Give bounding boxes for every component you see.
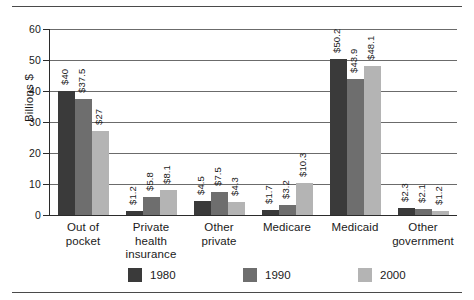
legend-label: 1980: [150, 269, 176, 281]
y-axis-tick-labels: 0102030405060: [0, 0, 41, 300]
y-axis-tick: [43, 122, 50, 123]
bar[interactable]: [126, 211, 143, 215]
bar[interactable]: [75, 99, 92, 215]
bar-group: $50.2$43.9$48.1: [321, 29, 389, 215]
x-axis-category-label: Out ofpocket: [49, 221, 117, 248]
bar-column: $1.2: [126, 29, 143, 215]
x-axis-category-label: Othergovernment: [389, 221, 457, 248]
bar-column: $40: [58, 29, 75, 215]
bar-value-label: $10.3: [297, 153, 308, 177]
category-label-line: Medicaid: [321, 221, 389, 235]
y-axis-tick-label: 0: [1, 209, 41, 221]
category-label-line: Other: [185, 221, 253, 235]
y-axis-tick-label: 60: [1, 23, 41, 35]
x-axis-category-label: Medicare: [253, 221, 321, 235]
bar-chart-figure: Billions $ 0102030405060 $40$37.5$27$1.2…: [0, 0, 474, 300]
bar-group: $1.2$5.8$8.1: [117, 29, 185, 215]
bar-group-bars: $1.7$3.2$10.3: [253, 29, 321, 215]
legend-item[interactable]: 1990: [243, 268, 291, 282]
bar-group: $1.7$3.2$10.3: [253, 29, 321, 215]
bar-column: $50.2: [330, 29, 347, 215]
bar-column: $4.5: [194, 29, 211, 215]
legend-label: 2000: [380, 269, 406, 281]
bar-value-label: $1.2: [127, 186, 138, 205]
bar-group-bars: $2.3$2.1$1.2: [389, 29, 457, 215]
category-label-line: Out of: [49, 221, 117, 235]
bar-group: $4.5$7.5$4.3: [185, 29, 253, 215]
y-axis-tick-label: 20: [1, 147, 41, 159]
bar[interactable]: [364, 66, 381, 215]
legend-label: 1990: [265, 269, 291, 281]
bar[interactable]: [279, 205, 296, 215]
bar[interactable]: [296, 183, 313, 215]
legend-item[interactable]: 2000: [358, 268, 406, 282]
bar[interactable]: [347, 79, 364, 215]
bar-column: $1.7: [262, 29, 279, 215]
bar-column: $48.1: [364, 29, 381, 215]
bar-column: $3.2: [279, 29, 296, 215]
bar[interactable]: [211, 192, 228, 215]
y-axis-tick-label: 50: [1, 54, 41, 66]
bar-value-label: $4.3: [229, 177, 240, 196]
bar-value-label: $8.1: [161, 165, 172, 184]
bar-column: $7.5: [211, 29, 228, 215]
x-axis-category-label: Medicaid: [321, 221, 389, 235]
bar[interactable]: [262, 210, 279, 215]
bar-value-label: $4.5: [195, 176, 206, 195]
bar-value-label: $43.9: [348, 49, 359, 73]
bar-value-label: $50.2: [331, 29, 342, 53]
bar[interactable]: [415, 209, 432, 216]
category-label-line: private: [185, 235, 253, 249]
bar[interactable]: [398, 208, 415, 215]
bar-group-bars: $50.2$43.9$48.1: [321, 29, 389, 215]
x-axis-category-label: Otherprivate: [185, 221, 253, 248]
x-axis-line: [43, 215, 457, 216]
bar[interactable]: [92, 131, 109, 215]
bar-group: $2.3$2.1$1.2: [389, 29, 457, 215]
bar-groups: $40$37.5$27$1.2$5.8$8.1$4.5$7.5$4.3$1.7$…: [49, 29, 457, 215]
bar-value-label: $2.3: [399, 183, 410, 202]
bar-group-bars: $4.5$7.5$4.3: [185, 29, 253, 215]
category-label-line: insurance: [117, 248, 185, 262]
legend-item[interactable]: 1980: [128, 268, 176, 282]
category-label-line: health: [117, 235, 185, 249]
y-axis-tick-label: 40: [1, 85, 41, 97]
bar-column: $43.9: [347, 29, 364, 215]
bar-column: $2.1: [415, 29, 432, 215]
bar-column: $27: [92, 29, 109, 215]
y-axis-tick: [43, 60, 50, 61]
bar-value-label: $5.8: [144, 172, 155, 191]
y-axis-tick: [43, 29, 50, 30]
x-axis-category-label: Privatehealthinsurance: [117, 221, 185, 262]
category-label-line: Private: [117, 221, 185, 235]
bar-value-label: $3.2: [280, 180, 291, 199]
bottom-divider-rule: [12, 292, 462, 293]
y-axis-tick: [43, 91, 50, 92]
bar[interactable]: [228, 202, 245, 215]
bar-value-label: $2.1: [416, 184, 427, 203]
bar[interactable]: [330, 59, 347, 215]
bar-group: $40$37.5$27: [49, 29, 117, 215]
category-label-line: government: [389, 235, 457, 249]
y-axis-tick-label: 10: [1, 178, 41, 190]
bar-column: $37.5: [75, 29, 92, 215]
category-label-line: Medicare: [253, 221, 321, 235]
bar-group-bars: $40$37.5$27: [49, 29, 117, 215]
bar[interactable]: [58, 91, 75, 215]
bar-value-label: $37.5: [76, 68, 87, 92]
bar[interactable]: [143, 197, 160, 215]
bar-column: $2.3: [398, 29, 415, 215]
bar[interactable]: [160, 190, 177, 215]
bar-column: $10.3: [296, 29, 313, 215]
y-axis-tick: [43, 153, 50, 154]
bar-value-label: $1.2: [433, 186, 444, 205]
bar[interactable]: [432, 211, 449, 215]
bar-group-bars: $1.2$5.8$8.1: [117, 29, 185, 215]
bar-value-label: $1.7: [263, 185, 274, 204]
bar-value-label: $27: [93, 109, 104, 125]
chart-legend: 198019902000: [0, 268, 474, 288]
y-axis-tick-label: 30: [1, 116, 41, 128]
bar-column: $1.2: [432, 29, 449, 215]
bar[interactable]: [194, 201, 211, 215]
legend-swatch: [128, 268, 142, 282]
